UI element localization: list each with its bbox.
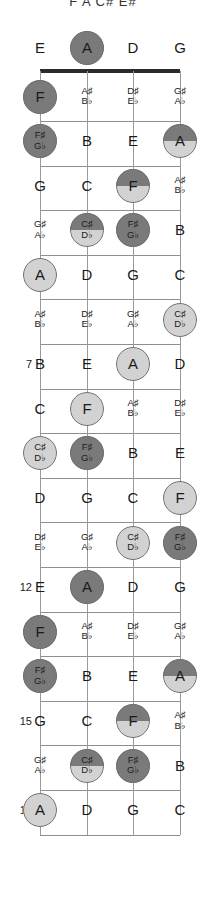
note-label: C♯D♭ [64, 755, 110, 776]
note-enharmonic: F♯G♭ [110, 755, 156, 776]
note-natural: A [110, 356, 156, 371]
note-label: D [110, 40, 156, 55]
note-enharmonic: D♯E♭ [17, 532, 63, 553]
note-enharmonic: G♯A♭ [157, 621, 203, 642]
fret-line [40, 299, 180, 300]
note-label: G♯A♭ [17, 755, 63, 776]
note-label: C [157, 267, 203, 282]
note-label: F [64, 401, 110, 416]
note-natural: F [17, 89, 63, 104]
note-enharmonic: F♯G♭ [17, 130, 63, 151]
note-natural: A [17, 267, 63, 282]
note-natural: D [110, 40, 156, 55]
note-natural: E [64, 356, 110, 371]
note-natural: D [64, 267, 110, 282]
note-enharmonic: G♯A♭ [17, 219, 63, 240]
note-natural: C [64, 713, 110, 728]
note-label: E [110, 133, 156, 148]
fret-line [40, 612, 180, 613]
note-label: G [157, 579, 203, 594]
note-label: B [64, 133, 110, 148]
note-enharmonic: C♯D♭ [157, 309, 203, 330]
note-enharmonic: C♯D♭ [64, 755, 110, 776]
note-label: D [17, 490, 63, 505]
note-enharmonic: G♯A♭ [157, 86, 203, 107]
note-natural: G [17, 178, 63, 193]
note-label: A [64, 40, 110, 55]
note-label: D [64, 267, 110, 282]
note-label: B [157, 758, 203, 773]
fret-line [40, 790, 180, 791]
note-natural: E [157, 445, 203, 460]
note-label: C [110, 490, 156, 505]
note-label: F♯G♭ [17, 665, 63, 686]
note-enharmonic: F♯G♭ [17, 665, 63, 686]
note-natural: G [110, 267, 156, 282]
note-label: A [64, 579, 110, 594]
note-label: D [157, 356, 203, 371]
note-enharmonic: G♯A♭ [110, 309, 156, 330]
note-enharmonic: A♯B♭ [157, 710, 203, 731]
note-enharmonic: A♯B♭ [64, 86, 110, 107]
fret-line [40, 567, 180, 568]
note-label: C♯D♭ [17, 442, 63, 463]
note-enharmonic: A♯B♭ [64, 621, 110, 642]
note-label: G♯A♭ [157, 86, 203, 107]
fret-line [40, 656, 180, 657]
note-label: E [157, 445, 203, 460]
note-label: C [17, 401, 63, 416]
note-natural: F [157, 490, 203, 505]
note-label: A♯B♭ [17, 309, 63, 330]
note-label: A [17, 802, 63, 817]
fret-line [40, 344, 180, 345]
note-natural: D [17, 490, 63, 505]
note-natural: A [64, 40, 110, 55]
note-natural: A [157, 133, 203, 148]
note-label: F [110, 178, 156, 193]
note-enharmonic: C♯D♭ [64, 219, 110, 240]
note-label: D♯E♭ [110, 621, 156, 642]
note-label: C [157, 802, 203, 817]
note-natural: C [17, 401, 63, 416]
nut [40, 69, 180, 73]
note-label: E [64, 356, 110, 371]
note-natural: F [110, 713, 156, 728]
note-label: D♯E♭ [110, 86, 156, 107]
note-label: D♯E♭ [17, 532, 63, 553]
note-natural: G [157, 579, 203, 594]
note-natural: G [17, 713, 63, 728]
note-label: F [157, 490, 203, 505]
fret-line [40, 745, 180, 746]
note-label: B [64, 668, 110, 683]
note-label: A [17, 267, 63, 282]
note-label: A [157, 668, 203, 683]
note-label: C♯D♭ [64, 219, 110, 240]
note-enharmonic: D♯E♭ [64, 309, 110, 330]
note-enharmonic: F♯G♭ [110, 219, 156, 240]
note-label: F♯G♭ [17, 130, 63, 151]
note-label: G [64, 490, 110, 505]
note-label: F♯G♭ [157, 532, 203, 553]
fret-line [40, 522, 180, 523]
note-natural: B [17, 356, 63, 371]
note-enharmonic: G♯A♭ [64, 532, 110, 553]
note-label: E [17, 579, 63, 594]
note-label: B [157, 222, 203, 237]
fret-line [40, 835, 180, 836]
note-label: F♯G♭ [64, 442, 110, 463]
note-natural: E [17, 40, 63, 55]
note-natural: G [64, 490, 110, 505]
note-label: A [110, 356, 156, 371]
note-label: D [64, 802, 110, 817]
note-natural: F [64, 401, 110, 416]
note-natural: E [17, 579, 63, 594]
note-enharmonic: C♯D♭ [110, 532, 156, 553]
note-label: D♯E♭ [64, 309, 110, 330]
note-label: G♯A♭ [157, 621, 203, 642]
note-enharmonic: F♯G♭ [64, 442, 110, 463]
note-enharmonic: C♯D♭ [17, 442, 63, 463]
note-natural: F [17, 624, 63, 639]
note-natural: E [110, 133, 156, 148]
note-label: C♯D♭ [110, 532, 156, 553]
note-label: G [110, 267, 156, 282]
